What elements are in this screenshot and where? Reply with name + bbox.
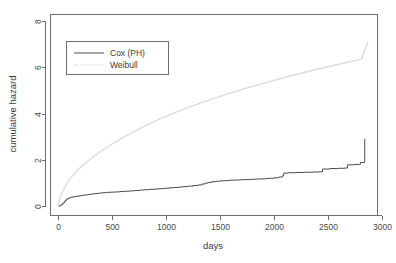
chart-legend: Cox (PH)Weibull bbox=[67, 42, 169, 75]
x-tick-label: 2500 bbox=[319, 222, 338, 232]
chart-canvas: 050010001500200025003000 02468 days cumu… bbox=[0, 0, 396, 263]
x-tick-label: 2000 bbox=[265, 222, 284, 232]
x-tick-label: 3000 bbox=[373, 222, 392, 232]
legend-label: Weibull bbox=[110, 60, 138, 70]
x-axis-title: days bbox=[203, 240, 223, 251]
cumulative-hazard-chart: 050010001500200025003000 02468 days cumu… bbox=[0, 0, 396, 263]
y-tick-label: 0 bbox=[33, 204, 43, 209]
x-tick-label: 500 bbox=[105, 222, 119, 232]
x-tick-label: 0 bbox=[56, 222, 61, 232]
y-tick-label: 4 bbox=[33, 112, 43, 117]
y-axis-title: cumulative hazard bbox=[7, 75, 18, 152]
x-tick-label: 1500 bbox=[211, 222, 230, 232]
legend-label: Cox (PH) bbox=[110, 48, 145, 58]
x-axis: 050010001500200025003000 bbox=[56, 216, 392, 232]
y-tick-label: 8 bbox=[33, 19, 43, 24]
y-tick-label: 2 bbox=[33, 158, 43, 163]
y-tick-label: 6 bbox=[33, 65, 43, 70]
x-tick-label: 1000 bbox=[157, 222, 176, 232]
y-axis: 02468 bbox=[33, 19, 46, 209]
